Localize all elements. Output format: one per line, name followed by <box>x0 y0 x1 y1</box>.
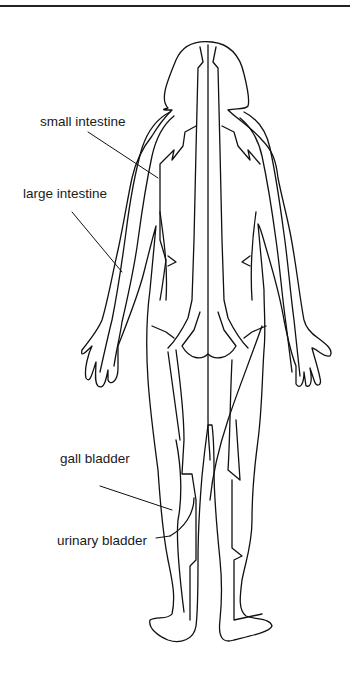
label-gall-bladder: gall bladder <box>60 451 130 466</box>
leg-channel-right-b <box>232 480 262 620</box>
inner-bladder-channel-left <box>168 47 203 348</box>
label-urinary-bladder: urinary bladder <box>57 533 147 548</box>
body-outline-diagram <box>0 0 350 682</box>
waist-notch-right <box>242 256 250 266</box>
governing-vessel-line <box>208 45 210 460</box>
label-large-intestine: large intestine <box>23 186 107 201</box>
leader-gall-bladder <box>100 486 172 510</box>
hip-crease-left <box>152 326 174 338</box>
waist-notch-left <box>168 256 176 266</box>
urinary-bladder-channel <box>170 498 194 536</box>
arm-channel-left-outer <box>100 112 170 372</box>
side-channel-left <box>160 212 167 300</box>
leg-channel-right-a <box>228 360 240 480</box>
inner-bladder-channel-right <box>213 47 248 348</box>
label-small-intestine: small intestine <box>40 114 126 129</box>
channel-shoulder-left <box>160 126 196 300</box>
arm-channel-right-inner <box>240 118 292 372</box>
leader-small-intestine <box>88 132 158 178</box>
side-channel-right <box>251 212 256 300</box>
leader-large-intestine <box>72 212 122 272</box>
arm-channel-left-inner <box>114 116 174 366</box>
hip-crease-right <box>244 326 266 338</box>
leg-channel-left-a <box>176 350 196 620</box>
leader-urinary-bladder <box>156 536 170 538</box>
